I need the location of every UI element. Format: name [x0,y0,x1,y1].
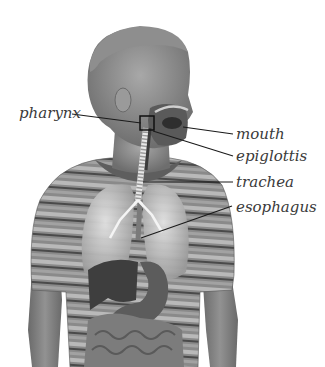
label-trachea: trachea [236,175,294,190]
diagram-canvas: pharynx mouth epiglottis trachea esophag… [0,0,325,367]
label-pharynx: pharynx [19,106,81,121]
label-mouth: mouth [236,127,285,142]
label-esophagus: esophagus [236,200,317,215]
label-epiglottis: epiglottis [236,149,307,164]
